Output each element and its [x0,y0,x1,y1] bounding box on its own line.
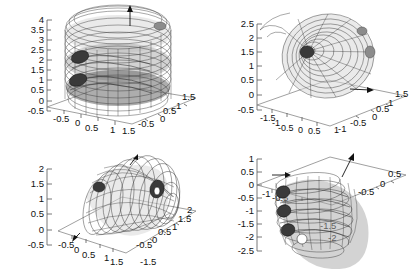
z-tick: 1.5 [31,178,44,189]
y-tick: 0 [152,234,157,245]
z-tick: 2 [249,32,254,43]
y-tick: -1 [338,123,346,134]
z-tick: 0 [249,89,254,100]
y-tick: 1 [172,221,177,232]
y-tick: -0.5 [136,239,152,250]
z-tick: -1.5 [238,218,254,229]
z-tick: 2.5 [241,18,254,29]
surface-mesh-bottom-left [78,151,184,237]
y-tick: 1.5 [182,91,195,102]
x-tick: 0 [298,125,303,135]
z-axis-top-left: 4 3.5 3 2.5 2 1.5 1 0.5 0 -0.5 [28,14,52,116]
panel-top-left-canvas: 4 3.5 3 2.5 2 1.5 1 0.5 0 -0.5 -0. [0,0,210,135]
panel-top-left: 4 3.5 3 2.5 2 1.5 1 0.5 0 -0.5 -0. [0,0,210,135]
z-tick: 0.5 [31,208,44,219]
z-tick: -1 [246,205,254,216]
x-tick: 1 [110,124,115,135]
z-tick: 1.5 [241,46,254,57]
surface-mesh-top-left [65,5,171,117]
panel-top-right-canvas: 2.5 2 1.5 1 0.5 0 -0.5 -1.5 -1 -0.5 [210,0,420,135]
x-tick: -0.5 [53,113,69,124]
x-tick: 1 [104,252,109,263]
x-tick: 1.5 [110,256,123,267]
y-tick: 0 [380,178,385,189]
panel-bottom-left-canvas: 2 1.5 1 0.5 0 -0.5 -0.5 0 0.5 1 1. [0,135,210,269]
x-tick: 0.5 [85,122,98,133]
y-tick: 0.5 [388,168,401,179]
y-tick: 0 [372,111,377,122]
z-tick: -0.5 [238,192,254,203]
z-tick: 2 [39,163,44,174]
x-tick: 0 [74,244,79,255]
x-tick: -0.5 [278,123,294,133]
x-tick: 0.5 [308,126,321,135]
z-tick: -0.5 [238,104,254,115]
z-tick: 0.5 [31,84,44,95]
z-tick: 0 [249,179,254,190]
z-axis-top-right: 2.5 2 1.5 1 0.5 0 -0.5 [238,18,262,115]
panel-bottom-right-canvas: 1 0.5 0 -0.5 -1 -1.5 -2 -2.5 -1 -0.5 -1.… [210,135,420,269]
surface-plot-figure: 4 3.5 3 2.5 2 1.5 1 0.5 0 -0.5 -0. [0,0,420,269]
y-tick: 1.5 [395,88,408,99]
panel-bottom-right: 1 0.5 0 -0.5 -1 -1.5 -2 -2.5 -1 -0.5 -1.… [210,135,420,269]
x-tick: 0.5 [82,249,95,260]
z-tick: -2 [246,231,254,242]
z-tick: 0.5 [241,74,254,85]
y-tick: 0.5 [158,226,171,237]
y-tick: -0.5 [138,118,154,129]
y-tick: 0.5 [376,103,389,114]
z-tick: 1 [249,60,254,71]
x-tick: 1.5 [122,125,135,135]
surface-mesh-bottom-right [274,170,368,269]
z-axis-bottom-left: 2 1.5 1 0.5 0 -0.5 [28,163,52,250]
z-tick: -0.5 [28,105,44,116]
z-tick: -0.5 [28,239,44,250]
z-tick: 0.5 [241,166,254,177]
z-tick: 0 [39,224,44,235]
y-tick: -0.5 [350,117,366,128]
z-tick: 1 [39,193,44,204]
z-axis-bottom-right: 1 0.5 0 -0.5 -1 -1.5 -2 -2.5 [238,153,262,256]
z-tick: 1 [249,153,254,164]
panel-top-right: 2.5 2 1.5 1 0.5 0 -0.5 -1.5 -1 -0.5 [210,0,420,135]
z-tick: -2.5 [238,245,254,256]
x-tick: -0.5 [58,239,74,250]
x-tick: -1 [262,188,270,199]
y-tick: -0.5 [358,186,374,197]
y-tick: 0 [160,113,165,124]
y-tick: 1.5 [178,213,191,224]
y-tick: 1 [176,100,181,111]
panel-bottom-left: 2 1.5 1 0.5 0 -0.5 -0.5 0 0.5 1 1. [0,135,210,269]
y-tick: -1.5 [140,256,156,267]
x-tick: 0 [75,117,80,128]
